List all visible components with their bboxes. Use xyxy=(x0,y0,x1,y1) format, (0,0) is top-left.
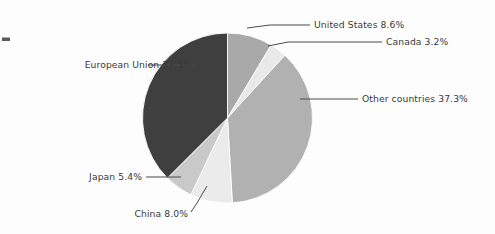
leader-line-united-states xyxy=(247,25,310,28)
slice-label-united-states: United States 8.6% xyxy=(314,19,404,30)
slice-label-canada: Canada 3.2% xyxy=(386,36,448,47)
pie-chart-canvas: United States 8.6% Canada 3.2% Other cou… xyxy=(0,0,495,234)
left-edge-dash-mark xyxy=(2,38,10,42)
slice-label-china: China 8.0% xyxy=(134,208,188,219)
slice-label-european-union: European Union 37.5% xyxy=(85,59,193,70)
slice-label-other-countries: Other countries 37.3% xyxy=(362,93,468,104)
slice-label-japan: Japan 5.4% xyxy=(88,171,142,182)
leader-line-canada xyxy=(268,42,382,46)
pie-chart-figure: United States 8.6% Canada 3.2% Other cou… xyxy=(0,0,495,234)
